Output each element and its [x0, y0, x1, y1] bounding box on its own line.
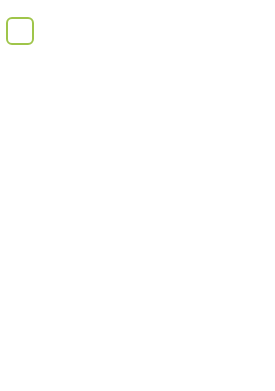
line-chart — [0, 0, 275, 391]
